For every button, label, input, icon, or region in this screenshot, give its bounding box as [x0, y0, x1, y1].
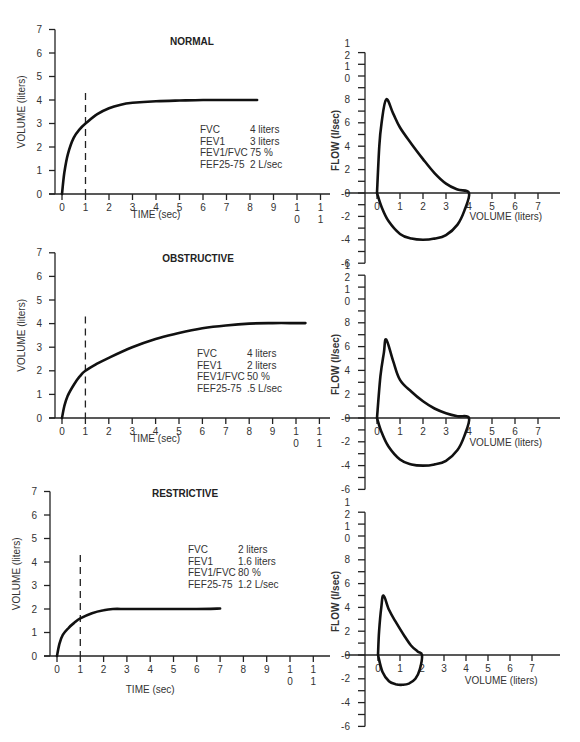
stat-value: 2 L/sec [250, 159, 282, 170]
y-tick-label: 2 [344, 164, 350, 175]
x-tick-label: 1 [83, 426, 89, 437]
chart-title: NORMAL [170, 36, 214, 47]
x-tick-label: 2 [106, 426, 112, 437]
y-tick-label: 2 [36, 365, 42, 376]
x-tick-label: 1 [397, 201, 403, 212]
stat-label: FEV1 [200, 136, 225, 147]
y-tick-label: 4 [36, 95, 42, 106]
y-tick-label: -4 [341, 460, 350, 471]
y-tick-label: 4 [36, 318, 42, 329]
x-tick-label: 3 [441, 663, 447, 674]
chart-title: RESTRICTIVE [152, 488, 218, 499]
flow-volume-chart-obstructive: -6-4-2-02468101201234567VOLUME (liters)F… [330, 260, 560, 495]
x-tick-label: 9 [271, 202, 277, 213]
y-axis-label: VOLUME (liters) [16, 299, 27, 372]
stat-value: 4 liters [247, 348, 276, 359]
y-axis-label: VOLUME (liters) [16, 75, 27, 148]
y-tick-label: 1 [36, 165, 42, 176]
y-tick-label: 2 [344, 50, 350, 61]
stat-value: .5 L/sec [247, 383, 282, 394]
flow-volume-loop [377, 99, 469, 240]
x-tick-label: 1 [78, 664, 84, 675]
y-tick-label: 0 [344, 533, 350, 544]
y-tick-label: 2 [344, 626, 350, 637]
stat-label: FVC [188, 544, 208, 555]
y-tick-label: -4 [341, 697, 350, 708]
stat-label: FEV1 [188, 556, 213, 567]
x-tick-label: 6 [507, 663, 513, 674]
x-tick-label: 7 [529, 663, 535, 674]
volume-time-chart-obstructive: 0123456701234567891011TIME (sec)VOLUME (… [16, 247, 330, 449]
y-tick-label: 2 [344, 272, 350, 283]
x-tick-label: 5 [485, 663, 491, 674]
stat-label: FEV1/FVC [200, 147, 248, 158]
y-tick-label: 3 [31, 580, 37, 591]
x-axis-label: VOLUME (liters) [465, 675, 538, 686]
stat-value: 75 % [250, 147, 273, 158]
x-tick-label: 5 [171, 664, 177, 675]
stat-value: 1.6 liters [238, 556, 276, 567]
x-tick-label: 1 [294, 202, 300, 213]
x-tick-label: 6 [200, 426, 206, 437]
y-tick-label: 2 [344, 389, 350, 400]
spirometry-figure: 0123456701234567891011TIME (sec)VOLUME (… [0, 0, 580, 742]
x-tick-label: 1 [311, 676, 317, 687]
stat-label: FEF25-75 [188, 579, 233, 590]
x-tick-label: 1 [83, 202, 89, 213]
x-axis-label: TIME (sec) [126, 684, 175, 695]
x-tick-label: 1 [293, 426, 299, 437]
stat-value: 2 liters [238, 544, 267, 555]
y-tick-label: 7 [36, 247, 42, 258]
x-tick-label: 9 [270, 426, 276, 437]
chart-title: OBSTRUCTIVE [162, 253, 234, 264]
y-tick-label: 1 [344, 61, 350, 72]
x-tick-label: 8 [246, 426, 252, 437]
y-tick-label: 6 [31, 510, 37, 521]
y-tick-label: 0 [344, 296, 350, 307]
y-axis-label: FLOW (l/sec) [330, 334, 341, 395]
y-tick-label: 1 [344, 521, 350, 532]
y-tick-label: 1 [344, 38, 350, 49]
flow-volume-chart-normal: -6-4-2-02468101201234567VOLUME (liters)F… [330, 38, 560, 269]
y-tick-label: 6 [344, 578, 350, 589]
y-tick-label: 4 [344, 602, 350, 613]
y-tick-label: 5 [36, 295, 42, 306]
y-tick-label: 0 [31, 651, 37, 662]
x-tick-label: 2 [106, 202, 112, 213]
y-tick-label: 2 [344, 509, 350, 520]
y-tick-label: 5 [36, 71, 42, 82]
x-axis-label: TIME (sec) [131, 433, 180, 444]
x-tick-label: 7 [224, 202, 230, 213]
x-tick-label: 1 [318, 202, 324, 213]
x-axis-label: VOLUME (liters) [469, 437, 542, 448]
stat-value: 2 liters [247, 360, 276, 371]
x-tick-label: 4 [147, 664, 153, 675]
y-axis-label: FLOW (l/sec) [330, 110, 341, 171]
x-tick-label: 2 [101, 664, 107, 675]
x-tick-label: 1 [397, 426, 403, 437]
x-tick-label: 6 [200, 202, 206, 213]
x-tick-label: 2 [420, 426, 426, 437]
y-tick-label: -2 [341, 673, 350, 684]
x-axis-label: TIME (sec) [132, 209, 181, 220]
volume-time-chart-restrictive: 0123456701234567891011TIME (sec)VOLUME (… [11, 486, 330, 695]
stat-label: FEV1/FVC [197, 371, 245, 382]
x-tick-label: 1 [311, 664, 317, 675]
x-tick-label: 6 [512, 426, 518, 437]
y-tick-label: 1 [344, 497, 350, 508]
x-tick-label: 8 [247, 202, 253, 213]
x-tick-label: 0 [59, 202, 65, 213]
y-tick-label: 5 [31, 533, 37, 544]
y-tick-label: -6 [341, 484, 350, 495]
stat-label: FEV1/FVC [188, 567, 236, 578]
stat-value: 80 % [238, 567, 261, 578]
y-tick-label: 6 [344, 117, 350, 128]
y-tick-label: 1 [344, 260, 350, 271]
y-tick-label: 6 [36, 48, 42, 59]
y-tick-label: 2 [31, 604, 37, 615]
y-tick-label: 8 [344, 94, 350, 105]
y-tick-label: 6 [344, 341, 350, 352]
y-tick-label: 0 [344, 73, 350, 84]
y-tick-label: -4 [341, 234, 350, 245]
x-tick-label: 0 [294, 214, 300, 225]
